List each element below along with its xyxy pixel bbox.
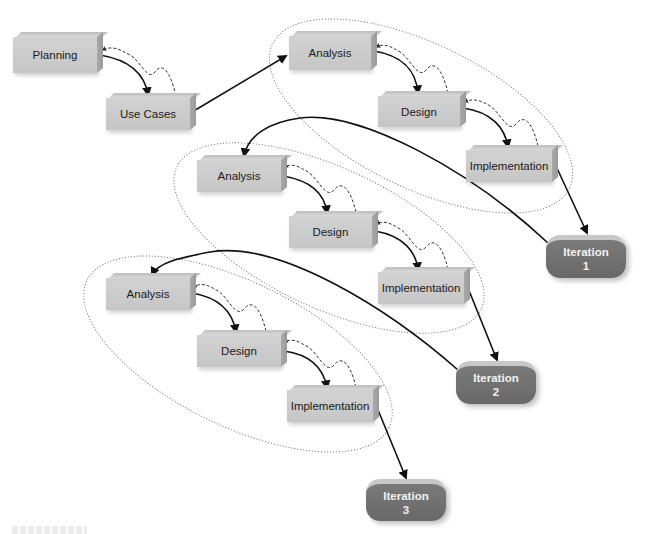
iteration-1-title: Iteration bbox=[563, 245, 608, 259]
analysis-label: Analysis bbox=[218, 170, 261, 182]
planning-box: Planning bbox=[13, 37, 97, 73]
implementation-label: Implementation bbox=[382, 282, 461, 294]
impl-2-to-iteration-2-arrow bbox=[468, 288, 497, 360]
analysis-label: Analysis bbox=[309, 47, 352, 59]
planning-label: Planning bbox=[33, 49, 78, 61]
iteration-3-result: Iteration 3 bbox=[366, 479, 446, 521]
design-label: Design bbox=[221, 345, 257, 357]
clipped-figure-caption bbox=[12, 526, 87, 534]
iteration-3-title: Iteration bbox=[383, 489, 428, 503]
design-label: Design bbox=[401, 106, 437, 118]
analysis-label: Analysis bbox=[127, 288, 170, 300]
use-cases-to-analysis-arrow bbox=[192, 56, 286, 112]
iteration-3-implementation-box: Implementation bbox=[287, 390, 373, 422]
iteration-1-analysis-box: Analysis bbox=[289, 36, 371, 70]
iteration-2-design-box: Design bbox=[289, 216, 372, 248]
iteration-1-design-box: Design bbox=[378, 96, 460, 127]
iteration-2-analysis-box: Analysis bbox=[197, 160, 281, 192]
iteration-1-number: 1 bbox=[583, 259, 589, 273]
design-label: Design bbox=[313, 226, 349, 238]
implementation-label: Implementation bbox=[470, 160, 549, 172]
iteration-1-result: Iteration 1 bbox=[546, 235, 626, 278]
implementation-label: Implementation bbox=[291, 400, 370, 412]
planning-to-use-cases-arrow bbox=[100, 55, 148, 95]
iteration-2-title: Iteration bbox=[473, 371, 518, 385]
iteration-1-implementation-box: Implementation bbox=[466, 150, 552, 182]
iteration-2-result: Iteration 2 bbox=[456, 361, 536, 404]
iteration-2-implementation-box: Implementation bbox=[378, 272, 464, 304]
iteration-3-design-box: Design bbox=[197, 335, 281, 367]
impl-1-to-iteration-1-arrow bbox=[556, 166, 587, 233]
use-cases-box: Use Cases bbox=[106, 98, 190, 130]
iteration-3-number: 3 bbox=[403, 503, 409, 517]
use-cases-label: Use Cases bbox=[120, 108, 176, 120]
iteration-3-analysis-box: Analysis bbox=[106, 278, 190, 310]
iterative-process-diagram: Planning Use Cases Analysis Design Imple… bbox=[0, 0, 646, 534]
impl-3-to-iteration-3-arrow bbox=[376, 405, 406, 478]
iteration-2-number: 2 bbox=[493, 385, 499, 399]
